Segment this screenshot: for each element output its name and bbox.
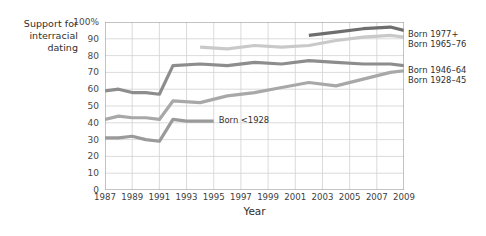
chart-figure: Support for interracial dating 010203040… <box>0 0 486 236</box>
x-tick-label-1995: 1995 <box>203 192 225 202</box>
legend-label-born-1928-45: Born 1928–45 <box>408 75 466 85</box>
x-tick-label-1999: 1999 <box>257 192 279 202</box>
y-tick-label-80: 80 <box>88 51 99 61</box>
x-axis-tick-labels: 1987198919911993199519971999200120032005… <box>105 192 404 206</box>
x-tick-label-2005: 2005 <box>339 192 361 202</box>
x-axis-title: Year <box>105 205 404 217</box>
plot-area <box>105 22 404 190</box>
y-tick-label-20: 20 <box>88 151 99 161</box>
x-tick-label-1993: 1993 <box>176 192 198 202</box>
x-tick-label-1991: 1991 <box>148 192 170 202</box>
plot-svg <box>105 22 404 190</box>
x-tick-label-1997: 1997 <box>230 192 252 202</box>
series-line-born-1928-45 <box>105 71 404 120</box>
x-tick-label-2009: 2009 <box>393 192 415 202</box>
y-tick-label-10: 10 <box>88 168 99 178</box>
gridlines <box>105 22 404 190</box>
y-tick-label-70: 70 <box>88 67 99 77</box>
y-tick-label-60: 60 <box>88 84 99 94</box>
y-tick-label-40: 40 <box>88 118 99 128</box>
x-tick-label-2007: 2007 <box>366 192 388 202</box>
series-line-born-1965-76 <box>200 35 404 48</box>
y-tick-label-90: 90 <box>88 34 99 44</box>
x-tick-label-2003: 2003 <box>312 192 334 202</box>
legend-label-born-1977: Born 1977+ <box>408 29 458 39</box>
y-axis-tick-labels: 0102030405060708090100% <box>64 22 102 190</box>
y-tick-label-30: 30 <box>88 135 99 145</box>
x-tick-label-1989: 1989 <box>121 192 143 202</box>
legend-label-born-1946-64: Born 1946–64 <box>408 65 466 75</box>
born-before-1928-note: Born <1928 <box>219 115 269 125</box>
x-tick-label-2001: 2001 <box>284 192 306 202</box>
x-tick-label-1987: 1987 <box>94 192 116 202</box>
legend-label-born-1965-76: Born 1965–76 <box>408 39 466 49</box>
y-tick-label-50: 50 <box>88 101 99 111</box>
y-tick-label-100: 100% <box>73 17 99 27</box>
